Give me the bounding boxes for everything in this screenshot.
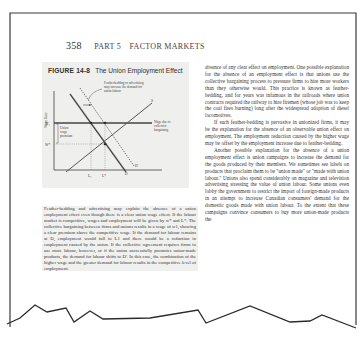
document-page: 358 PART 5 FACTOR MARKETS FIGURE 14-8The… <box>0 0 362 339</box>
torn-page-frame <box>0 0 362 339</box>
page-frame-top <box>10 13 356 327</box>
